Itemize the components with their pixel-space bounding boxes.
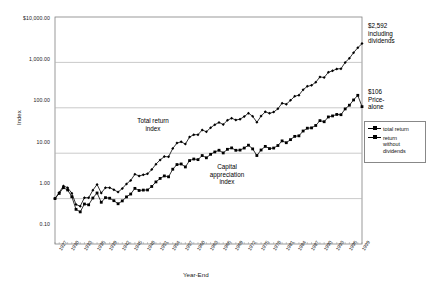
capital-appreciation-index-label: Capital appreciation index xyxy=(196,163,258,186)
legend: total return return without dividends xyxy=(364,121,426,163)
legend-label-total-return: total return xyxy=(383,126,427,132)
total-return-index-label: Total return index xyxy=(117,117,189,132)
price-alone-endpoint-annotation: $106 Price- alone xyxy=(368,88,384,111)
legend-marker-diamond-icon xyxy=(368,128,381,129)
legend-marker-square-icon xyxy=(368,137,381,138)
legend-label-return-without-dividends: return without dividends xyxy=(383,135,427,154)
stock-index-log-chart: $10,000.00 1,000.00 100.00 10.00 1.00 0.… xyxy=(0,0,429,292)
total-return-endpoint-annotation: $2,592 including dividends xyxy=(368,22,395,45)
